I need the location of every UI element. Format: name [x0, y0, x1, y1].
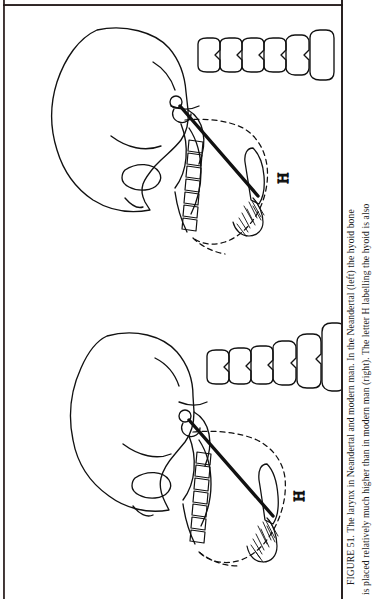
hyoid-label-group: H	[275, 172, 291, 183]
vertebra	[286, 35, 309, 75]
frontal-suture-line	[153, 62, 175, 90]
tooth	[191, 517, 206, 530]
tooth	[183, 205, 198, 218]
hyoid-label-h: H	[275, 172, 291, 183]
auditory-meatus	[122, 165, 161, 191]
hyoid-bone	[245, 148, 264, 204]
cranium-outline	[52, 28, 188, 212]
maxilla-outline	[183, 436, 194, 500]
tooth	[185, 179, 200, 192]
thyroid-cartilage-outline	[247, 518, 277, 562]
vertebra	[310, 30, 334, 80]
vertebra	[273, 341, 296, 385]
figure-illustration: H	[5, 6, 341, 598]
mastoid-process	[125, 198, 143, 208]
figure-svg: H	[5, 6, 341, 598]
hyoid-label-h: H	[291, 490, 307, 501]
tooth	[192, 504, 207, 517]
panel-neandertal: H	[52, 28, 334, 254]
caption-line-2: is placed relatively much higher than in…	[358, 0, 373, 599]
vertebra	[251, 346, 273, 384]
tooth	[186, 166, 201, 179]
scanned-page: H	[0, 0, 379, 599]
vertebra	[297, 334, 321, 388]
tooth	[193, 491, 208, 504]
frontal-suture-line	[155, 358, 179, 386]
maxilla-outline	[175, 124, 186, 188]
larynx-dashed-lower	[199, 552, 237, 566]
vertebra	[198, 38, 220, 72]
mandible-body	[175, 192, 187, 232]
hyoid-bone	[259, 464, 278, 524]
vertebra	[264, 38, 286, 72]
caption-line-1: FIGURE 51. The larynx in Neandertal and …	[343, 0, 358, 599]
auditory-meatus	[132, 473, 171, 499]
vertebra	[322, 323, 341, 391]
temporal-line	[111, 136, 161, 149]
cervical-vertebrae	[207, 323, 341, 391]
figure-caption: FIGURE 51. The larynx in Neandertal and …	[343, 0, 379, 599]
larynx-dashed-outline	[193, 431, 285, 562]
mandible-body	[183, 504, 195, 544]
temporal-line	[123, 444, 171, 457]
vertebra	[242, 38, 264, 72]
vertebra	[220, 38, 242, 72]
panel-modern-man: H	[71, 323, 341, 566]
tooth-row	[190, 452, 211, 543]
cervical-vertebrae	[198, 30, 334, 80]
tooth	[194, 478, 209, 491]
vertebra	[207, 350, 229, 384]
tooth	[195, 465, 210, 478]
hyoid-label-group: H	[291, 490, 307, 501]
vertebra	[229, 348, 251, 384]
